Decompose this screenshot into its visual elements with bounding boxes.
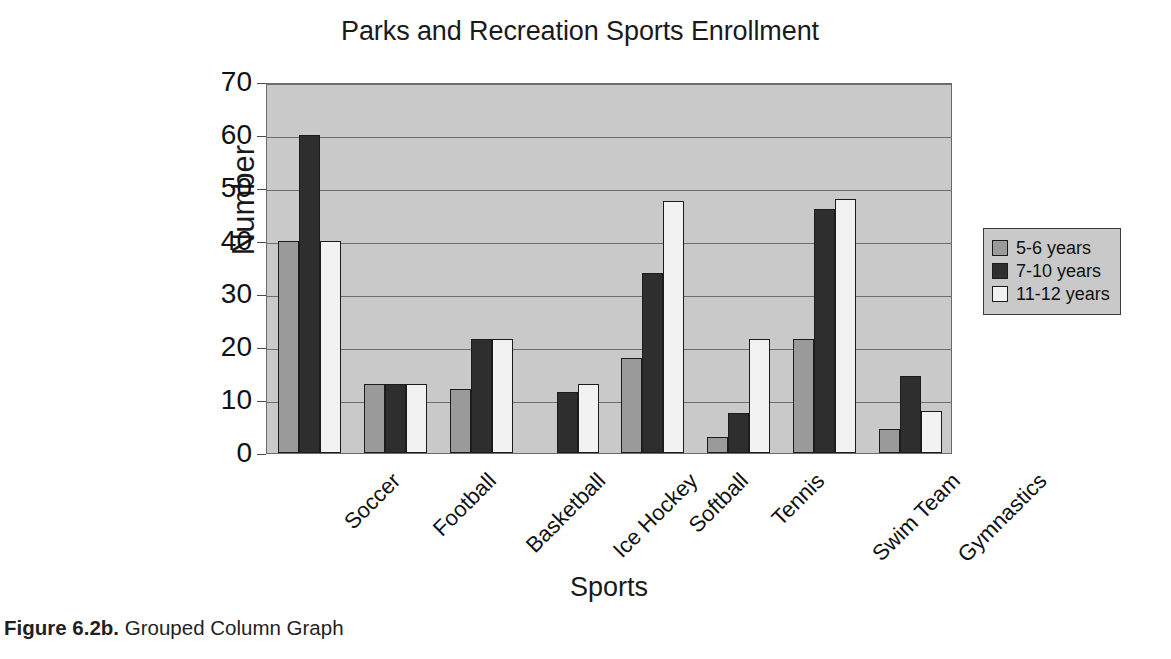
y-axis-tick	[257, 295, 266, 296]
x-axis-tick-label: Tennis	[767, 468, 830, 531]
bar	[728, 413, 749, 453]
bar	[471, 339, 492, 453]
bar	[492, 339, 513, 453]
y-axis-tick-label: 20	[190, 333, 252, 361]
bar	[557, 392, 578, 453]
legend-swatch-icon	[992, 286, 1008, 302]
bar	[406, 384, 427, 453]
y-axis-tick-label: 50	[190, 174, 252, 202]
y-axis-tick	[257, 83, 266, 84]
bar	[835, 199, 856, 453]
bar	[642, 273, 663, 453]
figure-caption: Figure 6.2b. Grouped Column Graph	[4, 616, 344, 640]
legend-item: 7-10 years	[992, 260, 1110, 282]
legend-swatch-icon	[992, 263, 1008, 279]
y-axis-tick-labels: 706050403020100	[180, 0, 252, 659]
bar-group	[696, 84, 782, 453]
bar	[320, 241, 341, 453]
bar	[707, 437, 728, 453]
x-axis-tick-labels: SoccerFootballBasketballIce HockeySoftba…	[266, 454, 952, 574]
y-axis-tick	[257, 136, 266, 137]
legend-swatch-icon	[992, 240, 1008, 256]
x-axis-tick-label: Gymnastics	[953, 468, 1053, 568]
legend-item-label: 7-10 years	[1016, 262, 1101, 280]
bar-group	[439, 84, 525, 453]
figure-caption-label: Figure 6.2b.	[4, 616, 119, 639]
chart-title: Parks and Recreation Sports Enrollment	[200, 16, 960, 47]
bar	[793, 339, 814, 453]
x-axis-tick-label: Football	[428, 468, 502, 542]
plot-area	[266, 83, 952, 454]
bar	[621, 358, 642, 453]
y-axis-tick-label: 0	[190, 439, 252, 467]
y-axis-tick	[257, 189, 266, 190]
legend-item-label: 5-6 years	[1016, 239, 1091, 257]
y-axis-tick-label: 30	[190, 280, 252, 308]
bar	[364, 384, 385, 453]
bar-group	[267, 84, 353, 453]
x-axis-tick-label: Basketball	[520, 468, 610, 558]
bar	[814, 209, 835, 453]
bar	[879, 429, 900, 453]
y-axis-tick-label: 70	[190, 68, 252, 96]
figure-container: Parks and Recreation Sports Enrollment N…	[0, 0, 1171, 659]
bar-group	[867, 84, 953, 453]
bar	[921, 411, 942, 453]
bar-group	[782, 84, 868, 453]
bar-group	[353, 84, 439, 453]
y-axis-tick-label: 60	[190, 121, 252, 149]
bar	[278, 241, 299, 453]
bar	[749, 339, 770, 453]
y-axis-tick	[257, 348, 266, 349]
y-axis-tick	[257, 401, 266, 402]
bar-group	[610, 84, 696, 453]
bar	[299, 135, 320, 453]
figure-caption-text: Grouped Column Graph	[119, 616, 343, 639]
y-axis-tick	[257, 454, 266, 455]
x-axis-title: Sports	[266, 572, 952, 603]
legend-item: 5-6 years	[992, 237, 1110, 259]
legend-item-label: 11-12 years	[1016, 285, 1110, 303]
legend-item: 11-12 years	[992, 283, 1110, 305]
bar	[663, 201, 684, 453]
y-axis-tick-label: 40	[190, 227, 252, 255]
bar	[900, 376, 921, 453]
x-axis-tick-label: Swim Team	[867, 468, 965, 566]
chart-legend: 5-6 years7-10 years11-12 years	[983, 228, 1121, 315]
bar	[450, 389, 471, 453]
bar	[385, 384, 406, 453]
y-axis-tick-label: 10	[190, 386, 252, 414]
y-axis-tick	[257, 242, 266, 243]
bar-group	[524, 84, 610, 453]
x-axis-tick-label: Soccer	[339, 468, 406, 535]
bar	[578, 384, 599, 453]
